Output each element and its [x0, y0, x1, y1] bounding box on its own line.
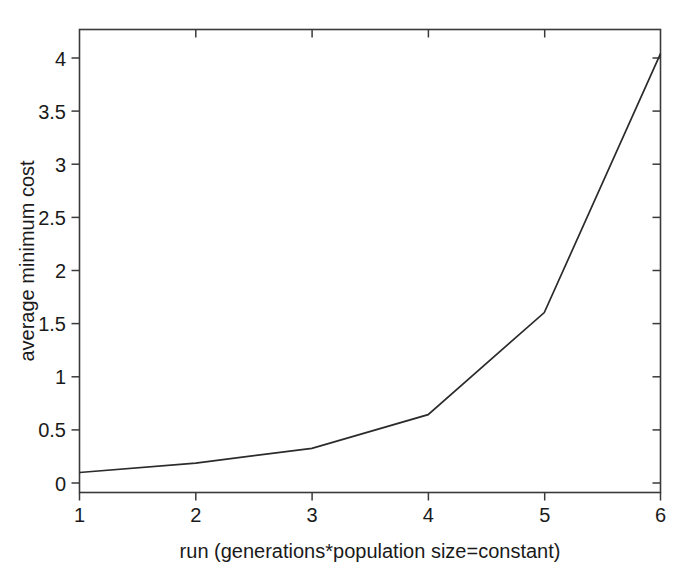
line-chart: 0 0.5 1 1.5 2 2.5 3 3.5 4 1 2 3 4 5 6 ru… [0, 0, 690, 573]
y-tick-label: 4 [55, 48, 66, 70]
y-tick-label: 0.5 [38, 419, 66, 441]
chart-background [0, 0, 690, 573]
x-tick-label: 3 [307, 504, 318, 526]
x-tick-label: 5 [539, 504, 550, 526]
x-tick-label: 6 [655, 504, 666, 526]
y-axis-title: average minimum cost [16, 160, 38, 362]
x-tick-label: 4 [423, 504, 434, 526]
x-tick-label: 1 [74, 504, 85, 526]
y-tick-label: 2.5 [38, 207, 66, 229]
y-tick-label: 3 [55, 154, 66, 176]
y-tick-label: 1 [55, 366, 66, 388]
x-tick-label: 2 [190, 504, 201, 526]
x-axis-title: run (generations*population size=constan… [180, 540, 561, 562]
y-tick-label: 0 [55, 473, 66, 495]
y-tick-label: 1.5 [38, 313, 66, 335]
y-tick-label: 3.5 [38, 101, 66, 123]
chart-figure: 0 0.5 1 1.5 2 2.5 3 3.5 4 1 2 3 4 5 6 ru… [0, 0, 690, 573]
y-tick-label: 2 [55, 260, 66, 282]
